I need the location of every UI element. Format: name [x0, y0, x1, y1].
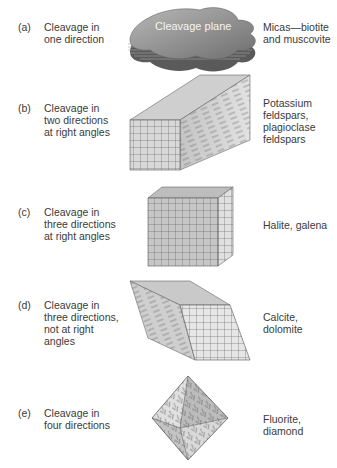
rhombohedron-shape	[130, 281, 250, 360]
row-e-minerals-2: diamond	[263, 425, 303, 438]
row-d-desc-1: Cleavage in	[44, 299, 99, 312]
row-a-minerals-1: Micas—biotite	[263, 21, 329, 34]
row-c-desc-2: three directions	[44, 218, 116, 231]
row-c-minerals-1: Halite, galena	[263, 219, 327, 232]
cube-shape	[148, 187, 233, 266]
row-b-minerals-3: plagioclase	[263, 121, 316, 134]
prism-shape	[130, 75, 250, 170]
mica-sheets-shape	[128, 8, 255, 72]
row-c-desc-1: Cleavage in	[44, 206, 99, 219]
row-b-minerals-2: feldspars,	[263, 109, 309, 122]
octahedron-shape	[152, 376, 228, 460]
row-c-letter: (c)	[18, 206, 30, 219]
row-d-desc-2: three directions,	[44, 311, 119, 324]
row-e-desc-2: four directions	[44, 419, 110, 432]
row-d-minerals-2: dolomite	[263, 323, 303, 336]
row-b-minerals-1: Potassium	[263, 97, 312, 110]
row-e-desc-1: Cleavage in	[44, 407, 99, 420]
row-d-minerals-1: Calcite,	[263, 311, 298, 324]
row-b-letter: (b)	[18, 102, 31, 115]
row-a-minerals-2: and muscovite	[263, 33, 331, 46]
cleavage-plane-label: Cleavage plane	[155, 20, 231, 33]
row-e-minerals-1: Fluorite,	[263, 413, 301, 426]
row-b-desc-3: at right angles	[44, 126, 110, 139]
row-b-desc-1: Cleavage in	[44, 102, 99, 115]
row-a-desc-2: one direction	[44, 33, 104, 46]
row-b-desc-2: two directions	[44, 114, 108, 127]
row-a-desc-1: Cleavage in	[44, 21, 99, 34]
row-d-desc-4: angles	[44, 335, 75, 348]
row-c-desc-3: at right angles	[44, 230, 110, 243]
row-d-letter: (d)	[18, 299, 31, 312]
row-b-minerals-4: feldspars	[263, 133, 306, 146]
row-a-letter: (a)	[18, 21, 31, 34]
row-d-desc-3: not at right	[44, 323, 94, 336]
row-e-letter: (e)	[18, 407, 31, 420]
